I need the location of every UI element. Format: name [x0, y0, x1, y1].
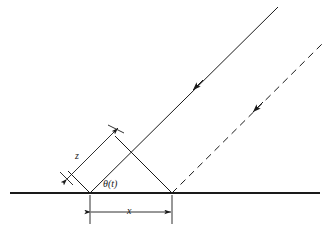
label-x: x: [127, 206, 131, 216]
figure-canvas: z θ(t) x: [0, 0, 331, 234]
solid-ray-arrow: [193, 80, 203, 90]
dashed-ray-arrow: [253, 102, 263, 112]
z-tick-upper: [108, 125, 124, 133]
solid-ray: [90, 7, 278, 193]
diagram-svg: [0, 0, 331, 234]
dashed-ray: [172, 44, 322, 193]
label-z: z: [75, 151, 79, 161]
label-theta: θ(t): [103, 179, 117, 189]
apex-right-segment: [115, 136, 172, 193]
